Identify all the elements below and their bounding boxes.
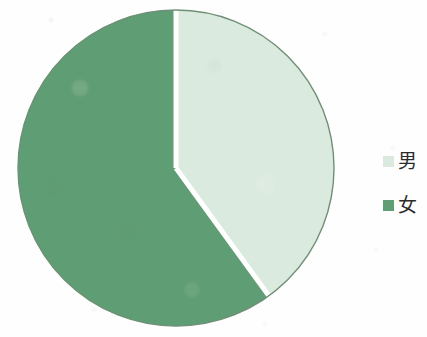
chart-legend: 男 女	[383, 148, 427, 236]
pie-chart-plot-area	[16, 8, 336, 328]
legend-item-female[interactable]: 女	[383, 192, 427, 218]
pie-slice-group	[18, 10, 334, 326]
pie-chart-figure: 男 女	[0, 0, 427, 337]
legend-item-male[interactable]: 男	[383, 148, 427, 174]
legend-swatch-female	[383, 200, 394, 211]
legend-label-male: 男	[398, 152, 417, 171]
legend-label-female: 女	[398, 196, 417, 215]
legend-swatch-male	[383, 156, 394, 167]
pie-chart-svg	[16, 8, 336, 328]
